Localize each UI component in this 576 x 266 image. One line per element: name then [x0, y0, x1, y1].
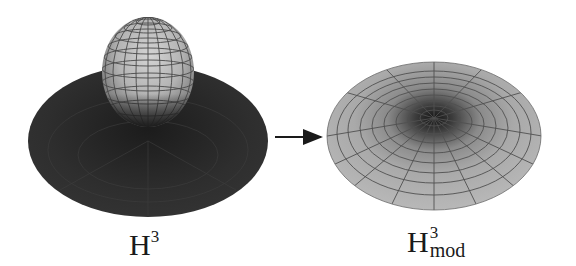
right-panel-h3mod — [327, 60, 542, 212]
sphere — [102, 17, 194, 127]
label-h3mod-scripts: 3mod — [429, 227, 475, 257]
label-h3: H3 — [129, 228, 159, 260]
label-h3-superscript: 3 — [151, 227, 160, 246]
label-h3mod-subscript: mod — [430, 240, 466, 260]
label-h3-base: H — [129, 228, 151, 261]
left-panel-h3 — [28, 17, 268, 217]
label-h3-mod: H3mod — [407, 227, 475, 257]
figure-canvas — [0, 0, 576, 266]
label-h3mod-base: H — [407, 225, 429, 258]
